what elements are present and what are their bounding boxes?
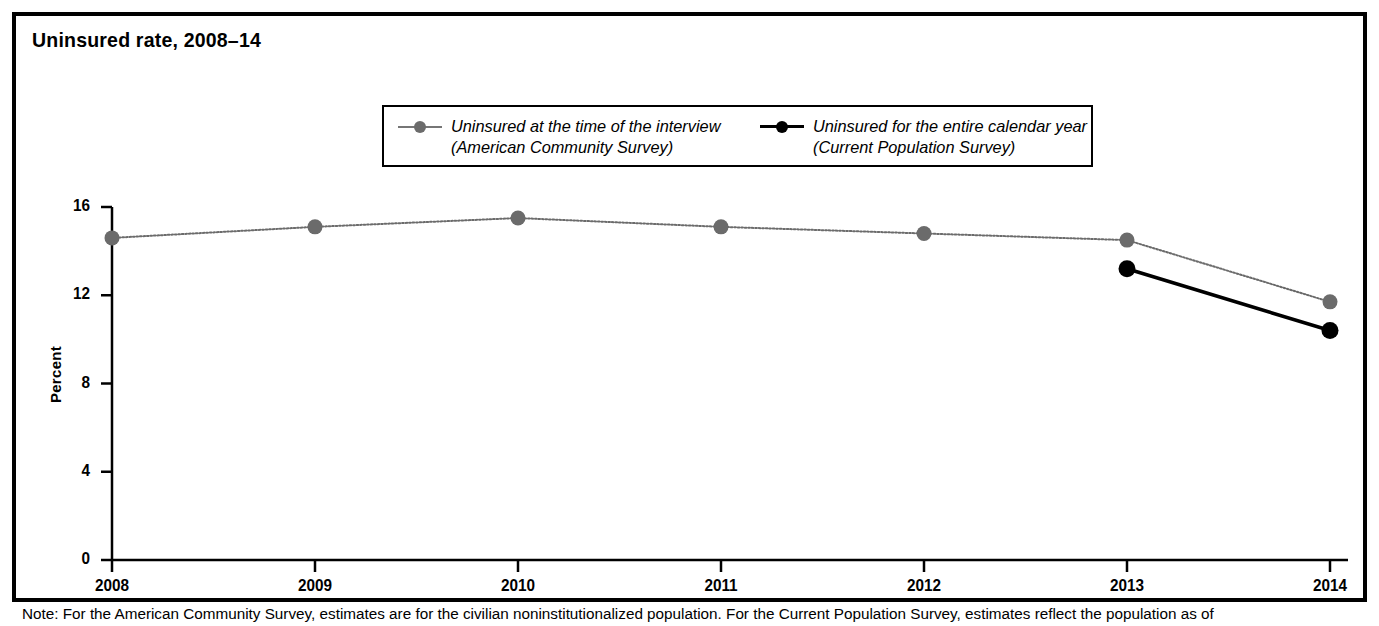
x-tick-label: 2008 xyxy=(76,576,148,596)
x-tick-label: 2010 xyxy=(482,576,554,596)
y-tick-label: 16 xyxy=(54,196,90,216)
legend-item-cps-text: Uninsured for the entire calendar year (… xyxy=(813,116,1087,158)
y-tick-label: 4 xyxy=(54,461,90,481)
legend-item-acs: Uninsured at the time of the interview (… xyxy=(398,116,732,158)
figure-frame xyxy=(12,12,1367,602)
x-tick-label: 2013 xyxy=(1091,576,1163,596)
gray-circle-line-marker-icon xyxy=(398,118,442,136)
x-tick-label: 2014 xyxy=(1294,576,1366,596)
x-tick-label: 2011 xyxy=(685,576,757,596)
y-tick-label: 12 xyxy=(54,284,90,304)
page-title: Uninsured rate, 2008–14 xyxy=(32,28,261,52)
y-tick-label: 8 xyxy=(54,373,90,393)
x-tick-label: 2012 xyxy=(888,576,960,596)
figure-note: Note: For the American Community Survey,… xyxy=(22,604,1342,623)
chart-legend: Uninsured at the time of the interview (… xyxy=(382,105,1093,167)
y-tick-label: 0 xyxy=(54,549,90,569)
legend-item-cps-line1: Uninsured for the entire calendar year xyxy=(813,117,1087,136)
legend-item-cps-line2: (Current Population Survey) xyxy=(813,138,1015,157)
legend-item-acs-line2: (American Community Survey) xyxy=(451,138,673,157)
legend-item-acs-text: Uninsured at the time of the interview (… xyxy=(451,116,720,158)
figure-container: Uninsured rate, 2008–14 Uninsured at the… xyxy=(0,0,1379,626)
x-tick-label: 2009 xyxy=(279,576,351,596)
black-circle-line-marker-icon xyxy=(760,118,804,136)
legend-item-acs-line1: Uninsured at the time of the interview xyxy=(451,117,720,136)
legend-item-cps: Uninsured for the entire calendar year (… xyxy=(760,116,1098,158)
